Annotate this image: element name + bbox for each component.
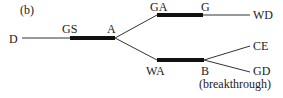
node-label-a: A xyxy=(107,22,116,36)
node-label-gd: GD xyxy=(253,64,271,78)
node-label-ce: CE xyxy=(253,39,268,53)
annotation-breakthrough: (breakthrough) xyxy=(199,77,271,91)
edge-b-gd xyxy=(204,60,250,72)
node-label-d: D xyxy=(9,32,18,46)
edge-a-wa xyxy=(115,38,157,60)
edge-b-ce xyxy=(204,46,250,60)
panel-label: (b) xyxy=(20,3,34,17)
node-label-g: G xyxy=(201,0,210,14)
node-label-b: B xyxy=(201,64,209,78)
branching-diagram: (b) D GS A GA G WD WA B CE GD (breakthro… xyxy=(0,0,283,98)
node-label-wa: WA xyxy=(146,64,165,78)
node-label-wd: WD xyxy=(253,8,273,22)
edge-a-ga xyxy=(115,15,157,38)
node-label-gs: GS xyxy=(62,22,77,36)
node-label-ga: GA xyxy=(150,0,168,14)
